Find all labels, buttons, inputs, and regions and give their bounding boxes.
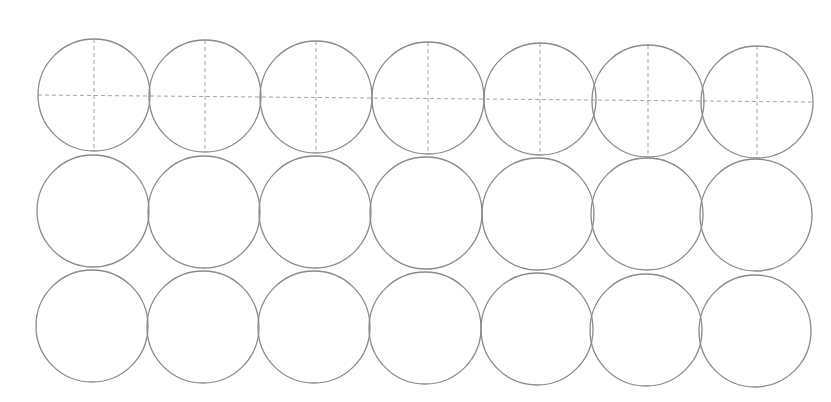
circle-outline xyxy=(258,271,370,383)
circle-2-2 xyxy=(148,156,260,268)
circle-3-2 xyxy=(147,271,259,383)
circle-3-7 xyxy=(699,275,811,387)
circle-outline xyxy=(700,159,812,271)
circle-2-5 xyxy=(482,158,594,270)
row-3 xyxy=(36,270,811,387)
circle-3-1 xyxy=(36,270,148,382)
circle-outline xyxy=(147,271,259,383)
circle-outline xyxy=(259,156,371,268)
circle-outline xyxy=(369,272,481,384)
circle-outline xyxy=(36,270,148,382)
circle-3-4 xyxy=(369,272,481,384)
row-2 xyxy=(37,155,812,271)
circle-outline xyxy=(482,158,594,270)
circle-2-3 xyxy=(259,156,371,268)
circle-outline xyxy=(699,275,811,387)
circle-outline xyxy=(370,157,482,269)
circle-outline xyxy=(591,158,703,270)
circle-3-6 xyxy=(590,274,702,386)
circle-2-4 xyxy=(370,157,482,269)
circle-2-6 xyxy=(591,158,703,270)
circle-grid xyxy=(0,0,831,402)
circle-outline xyxy=(481,273,593,385)
circle-2-1 xyxy=(37,155,149,267)
circle-1-6 xyxy=(592,45,704,157)
circle-3-5 xyxy=(481,273,593,385)
circle-3-3 xyxy=(258,271,370,383)
circle-outline xyxy=(37,155,149,267)
circle-2-7 xyxy=(700,159,812,271)
row-1 xyxy=(38,39,813,158)
horizontal-guide-line xyxy=(38,95,813,102)
circle-outline xyxy=(590,274,702,386)
circle-template-sheet xyxy=(0,0,831,402)
circle-outline xyxy=(148,156,260,268)
